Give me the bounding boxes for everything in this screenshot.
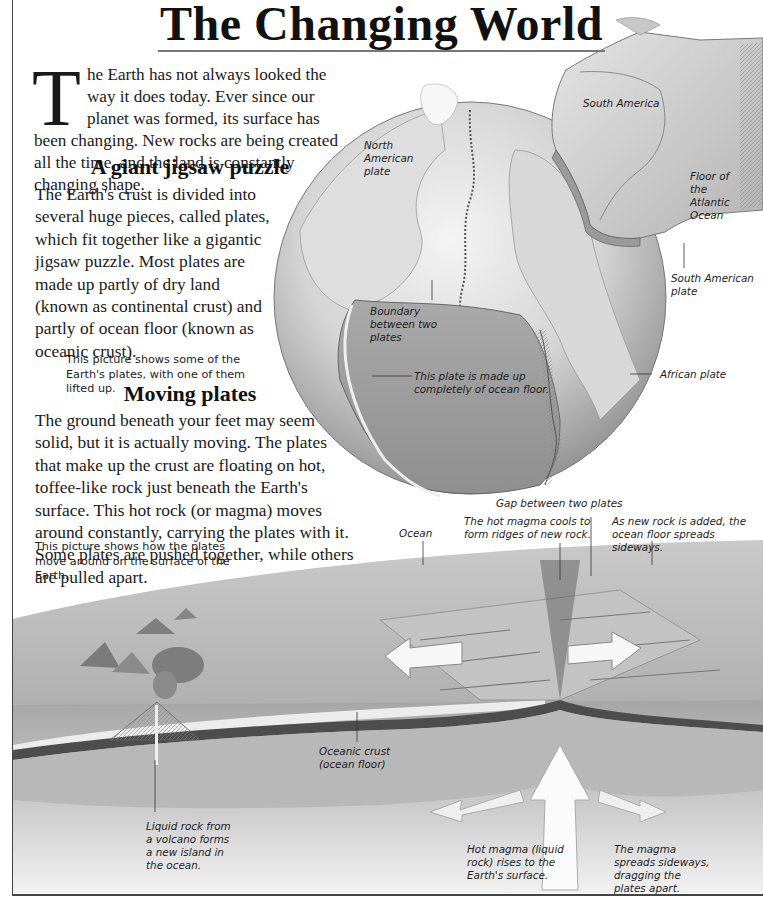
caption-cross-section: This picture shows how the plates move a… [35, 540, 255, 584]
label-south-american-plate: South American plate [671, 272, 763, 298]
label-hot-magma: Hot magma (liquid rock) rises to the Ear… [467, 843, 587, 882]
heading-moving-plates: Moving plates [40, 381, 340, 407]
heading-jigsaw: A giant jigsaw puzzle [40, 154, 340, 180]
label-ridges: The hot magma cools to form ridges of ne… [464, 515, 594, 541]
label-south-america: South America [583, 97, 659, 110]
page-title: The Changing World [0, 0, 763, 52]
label-floor-atlantic: Floor of the Atlantic Ocean [690, 170, 734, 222]
body-jigsaw: The Earth's crust is divided into severa… [35, 183, 271, 362]
label-ocean-floor-plate: This plate is made up completely of ocea… [414, 370, 554, 396]
label-ocean: Ocean [399, 527, 432, 540]
label-north-american-plate: North American plate [364, 139, 408, 178]
page-title-text: The Changing World [158, 0, 605, 52]
label-oceanic-crust: Oceanic crust (ocean floor) [319, 745, 399, 771]
label-african-plate: African plate [660, 368, 726, 381]
label-spreads: As new rock is added, the ocean floor sp… [612, 515, 763, 554]
drop-cap: T [32, 67, 81, 129]
label-volcano: Liquid rock from a volcano forms a new i… [146, 820, 232, 872]
label-magma-spreads: The magma spreads sideways, dragging the… [614, 843, 714, 895]
label-boundary: Boundary between two plates [370, 305, 460, 344]
label-gap: Gap between two plates [496, 497, 623, 510]
